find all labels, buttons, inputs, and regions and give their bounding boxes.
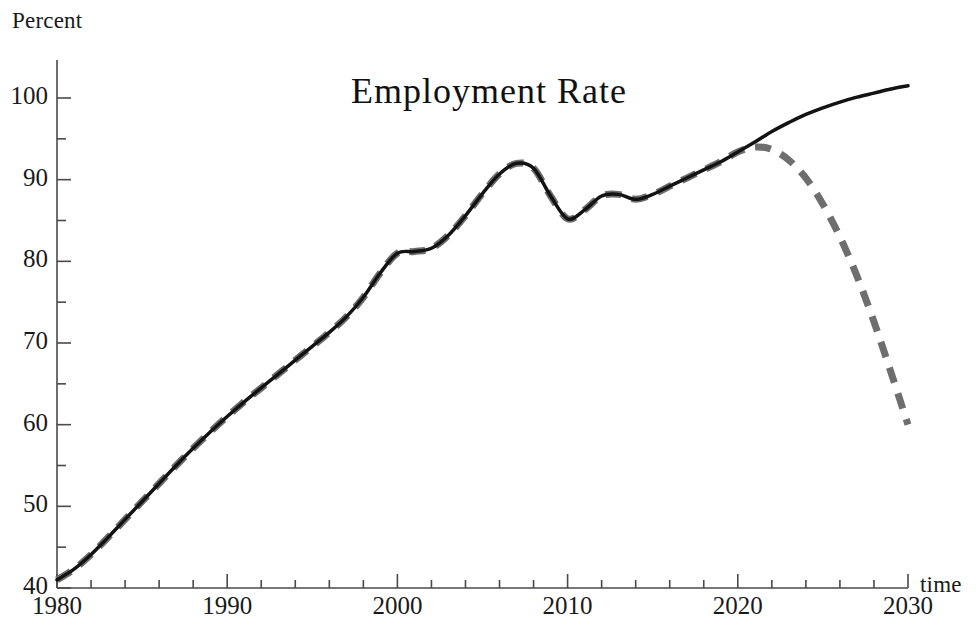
chart-figure: Percent Employment Rate 405060708090100 … <box>0 0 978 630</box>
x-tick-label: 2010 <box>523 592 613 620</box>
y-tick-label: 60 <box>0 409 48 437</box>
projection-line <box>57 147 908 580</box>
y-tick-label: 100 <box>0 82 48 110</box>
x-tick-label: 2020 <box>693 592 783 620</box>
x-tick-label: 1980 <box>12 592 102 620</box>
y-tick-label: 50 <box>0 490 48 518</box>
x-axis-unit-label: time <box>920 572 962 598</box>
x-tick-label: 2000 <box>352 592 442 620</box>
data-series <box>57 86 908 580</box>
y-tick-label: 90 <box>0 164 48 192</box>
axis-lines <box>57 60 908 588</box>
y-tick-label: 70 <box>0 327 48 355</box>
x-tick-label: 1990 <box>182 592 272 620</box>
y-tick-label: 80 <box>0 245 48 273</box>
axis-ticks <box>57 98 908 588</box>
plot-canvas <box>0 0 978 630</box>
historical-line <box>57 86 908 580</box>
